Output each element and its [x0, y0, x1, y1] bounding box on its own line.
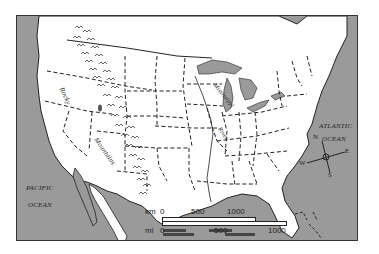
scale-mi-tick-1000: 1000: [268, 226, 286, 235]
land-mass: [37, 16, 347, 238]
compass-north-label: N: [313, 133, 318, 141]
scale-mi-tick-500: 500: [214, 226, 227, 235]
caribbean-islands: [295, 212, 321, 238]
scale-km-label: km: [145, 207, 156, 216]
scale-mi-tick-0: 0: [160, 226, 164, 235]
compass-west-label: W: [299, 159, 306, 167]
scale-km-tick-1000: 1000: [227, 207, 245, 216]
pacific-ocean-label-2: OCEAN: [28, 201, 52, 209]
map-frame: PACIFIC OCEAN ATLANTIC OCEAN Rocky Mount…: [16, 15, 358, 241]
atlantic-ocean-label-2: OCEAN: [322, 135, 346, 143]
great-salt-lake: [98, 105, 102, 112]
scale-km-tick-500: 500: [191, 207, 204, 216]
compass-east-label: E: [345, 147, 349, 155]
scale-km-tick-0: 0: [160, 207, 164, 216]
atlantic-ocean-label-1: ATLANTIC: [319, 122, 352, 130]
compass-rose-icon: [307, 141, 345, 173]
scale-mi-label: mi: [145, 226, 153, 235]
us-map-graphic: [17, 16, 358, 241]
compass-south-label: S: [328, 171, 332, 179]
pacific-ocean-label-1: PACIFIC: [26, 184, 53, 192]
